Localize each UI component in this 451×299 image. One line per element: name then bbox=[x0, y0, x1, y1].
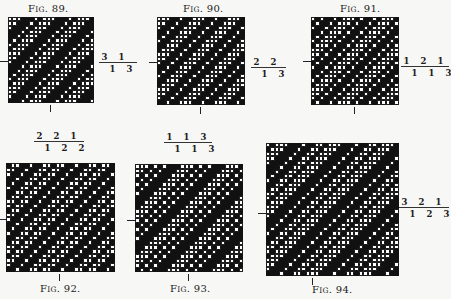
formula-up-value: 1 bbox=[116, 52, 127, 62]
warp-up-cell bbox=[239, 254, 244, 259]
formula-down-value: 3 bbox=[443, 68, 451, 78]
warp-up-cell bbox=[239, 191, 244, 196]
formula-numerator: 121 bbox=[401, 56, 451, 66]
weft-up-cell bbox=[74, 267, 79, 272]
warp-up-cell bbox=[341, 271, 345, 275]
formula-down-value: 1 bbox=[409, 68, 420, 78]
weft-up-cell bbox=[192, 87, 196, 91]
formula-down-value: 3 bbox=[206, 144, 217, 154]
formula-numerator: 22 bbox=[251, 57, 285, 67]
formula-denominator: 113 bbox=[172, 144, 223, 154]
warp-up-cell bbox=[239, 173, 244, 178]
warp-up-cell bbox=[110, 240, 115, 245]
formula-numerator: 321 bbox=[399, 197, 450, 207]
start-row-marker bbox=[303, 61, 311, 62]
start-column-marker bbox=[50, 105, 51, 112]
start-row-marker bbox=[149, 62, 157, 63]
warp-up-cell bbox=[180, 268, 185, 273]
warp-up-cell bbox=[346, 87, 350, 91]
warp-up-cell bbox=[135, 268, 140, 273]
warp-up-cell bbox=[207, 268, 212, 273]
weft-up-cell bbox=[381, 100, 385, 104]
formula-down-value: 3 bbox=[441, 209, 451, 219]
warp-up-cell bbox=[239, 164, 244, 169]
weft-up-cell bbox=[239, 200, 244, 205]
start-column-marker bbox=[312, 278, 313, 285]
warp-up-cell bbox=[310, 249, 314, 253]
figure-caption: FIG. 90. bbox=[183, 3, 224, 14]
figure-caption: FIG. 94. bbox=[312, 284, 353, 295]
formula-up-value: 1 bbox=[181, 132, 192, 142]
formula-divider bbox=[99, 62, 137, 63]
formula-down-value: 2 bbox=[76, 143, 87, 153]
weft-up-cell bbox=[310, 271, 314, 275]
weft-up-cell bbox=[198, 236, 203, 241]
weft-up-cell bbox=[144, 200, 149, 205]
warp-up-cell bbox=[288, 218, 292, 222]
warp-up-cell bbox=[90, 94, 94, 98]
weft-up-cell bbox=[135, 209, 140, 214]
weft-up-cell bbox=[239, 268, 244, 273]
warp-up-cell bbox=[341, 218, 345, 222]
formula-up-value: 3 bbox=[99, 52, 110, 62]
formula-up-value: 2 bbox=[251, 57, 262, 67]
weft-up-cell bbox=[216, 263, 221, 268]
warp-up-cell bbox=[394, 218, 398, 222]
warp-up-cell bbox=[24, 267, 29, 272]
formula-down-value: 1 bbox=[172, 144, 183, 154]
formula-up-value: 1 bbox=[435, 56, 446, 66]
warp-up-cell bbox=[162, 268, 167, 273]
warp-up-cell bbox=[341, 165, 345, 169]
weft-up-cell bbox=[171, 268, 176, 273]
weft-up-cell bbox=[189, 200, 194, 205]
formula-down-value: 1 bbox=[107, 64, 118, 74]
warp-up-cell bbox=[324, 30, 328, 34]
weft-up-cell bbox=[135, 254, 140, 259]
weft-up-cell bbox=[180, 164, 185, 169]
start-column-marker bbox=[200, 107, 201, 114]
formula-denominator: 13 bbox=[107, 64, 141, 74]
start-column-marker bbox=[354, 107, 355, 114]
formula-up-value: 2 bbox=[51, 131, 62, 141]
start-row-marker bbox=[0, 61, 8, 62]
formula-down-value: 1 bbox=[259, 69, 270, 79]
warp-up-cell bbox=[110, 181, 115, 186]
weft-up-cell bbox=[216, 173, 221, 178]
weft-up-cell bbox=[153, 236, 158, 241]
weft-up-cell bbox=[394, 187, 398, 191]
formula-down-value: 2 bbox=[59, 143, 70, 153]
warp-up-cell bbox=[74, 231, 79, 236]
warp-up-cell bbox=[394, 271, 398, 275]
warp-up-cell bbox=[6, 163, 11, 168]
formula-divider bbox=[34, 141, 84, 142]
figure-caption: FIG. 89. bbox=[28, 3, 69, 14]
formula-denominator: 122 bbox=[42, 143, 93, 153]
formula-down-value: 1 bbox=[426, 68, 437, 78]
warp-up-cell bbox=[144, 268, 149, 273]
formula-up-value: 2 bbox=[268, 57, 279, 67]
warp-up-cell bbox=[288, 271, 292, 275]
start-column-marker bbox=[59, 274, 60, 281]
warp-up-cell bbox=[189, 268, 194, 273]
warp-up-cell bbox=[239, 209, 244, 214]
formula-down-value: 3 bbox=[124, 64, 135, 74]
weft-up-cell bbox=[171, 263, 176, 268]
formula-up-value: 3 bbox=[198, 132, 209, 142]
formula-down-value: 1 bbox=[42, 143, 53, 153]
warp-up-cell bbox=[288, 165, 292, 169]
warp-up-cell bbox=[234, 268, 239, 273]
weft-up-cell bbox=[225, 209, 230, 214]
weft-up-cell bbox=[394, 87, 398, 91]
formula-up-value: 3 bbox=[399, 197, 410, 207]
formula-down-value: 1 bbox=[407, 209, 418, 219]
weft-up-cell bbox=[207, 182, 212, 187]
warp-up-cell bbox=[225, 268, 230, 273]
weft-up-cell bbox=[162, 182, 167, 187]
warp-up-cell bbox=[240, 100, 244, 104]
formula-numerator: 31 bbox=[99, 52, 133, 62]
warp-up-cell bbox=[239, 218, 244, 223]
formula-numerator: 221 bbox=[34, 131, 85, 141]
weft-up-cell bbox=[346, 52, 350, 56]
weft-up-cell bbox=[225, 164, 230, 169]
weft-up-cell bbox=[110, 231, 115, 236]
